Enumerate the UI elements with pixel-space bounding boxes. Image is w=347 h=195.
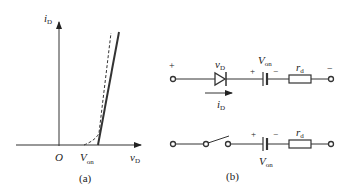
current-label: iD (217, 98, 225, 112)
source-plus: + (251, 129, 256, 139)
origin-label: O (55, 151, 63, 163)
source-plus: + (250, 66, 255, 76)
equivalent-circuit-bottom: + − rd Von (b) (171, 126, 334, 183)
voltage-source-icon (263, 137, 267, 151)
caption-a: (a) (79, 172, 92, 185)
diode-voltage-label: vD (215, 58, 225, 72)
piecewise-linear-curve (98, 32, 119, 145)
output-terminal (329, 142, 334, 147)
plus-left: + (169, 60, 175, 71)
resistor-label: rd (296, 61, 304, 75)
switch-terminal-1 (204, 142, 209, 147)
source-minus: − (273, 129, 278, 139)
equivalent-circuit-top: + − vD iD Von + − rd (169, 54, 334, 112)
input-terminal-plus (171, 77, 176, 82)
actual-diode-curve (84, 33, 111, 145)
source-minus: − (273, 66, 278, 76)
x-axis-label: vD (130, 151, 140, 165)
von-label: Von (80, 151, 94, 166)
iv-characteristic-graph: iD O Von vD (a) (16, 12, 141, 185)
minus-right: − (327, 63, 333, 74)
resistor-icon (289, 75, 311, 83)
resistor-label: rd (296, 126, 304, 140)
output-terminal-minus (329, 77, 334, 82)
resistor-icon (289, 140, 311, 148)
input-terminal (171, 142, 176, 147)
voltage-source-icon (263, 72, 267, 86)
caption-b: (b) (226, 170, 239, 183)
switch-terminal-2 (226, 142, 231, 147)
y-axis-label: iD (44, 12, 52, 26)
source-label: Von (259, 155, 273, 169)
source-label: Von (258, 54, 272, 68)
diode-icon (215, 72, 226, 86)
